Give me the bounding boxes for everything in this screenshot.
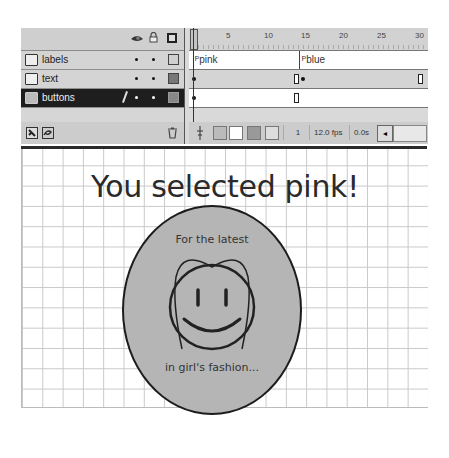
layers-header	[21, 28, 184, 51]
onion-skin-outlines-icon[interactable]	[229, 126, 243, 140]
layers-panel: labels text buttons	[21, 28, 185, 144]
selection-headline: You selected pink!	[22, 169, 428, 204]
frame-row-buttons[interactable]	[189, 89, 428, 108]
frame-label-pink: ᴾpink	[195, 54, 218, 65]
keyframe-divider	[299, 51, 300, 69]
center-frame-icon[interactable]	[195, 126, 205, 140]
layer-icon	[25, 92, 38, 104]
timeline-panel: labels text buttons	[21, 28, 428, 144]
elapsed-time: 0.0s	[349, 125, 376, 140]
keyframe[interactable]	[301, 77, 305, 81]
frame-ruler[interactable]: 5 10 15 20 25 30	[189, 28, 428, 51]
lock-toggle[interactable]	[152, 96, 155, 99]
layer-icon	[25, 54, 38, 66]
visibility-toggle[interactable]	[135, 77, 138, 80]
outline-icon[interactable]	[167, 33, 177, 43]
layer-row-text[interactable]: text	[21, 70, 184, 89]
layers-footer	[21, 122, 184, 144]
keyframe-end[interactable]	[418, 74, 423, 84]
onion-skin-icon[interactable]	[213, 126, 227, 140]
frame-row-labels[interactable]: ᴾpink ᴾblue	[189, 51, 428, 70]
smiley-face-icon	[124, 207, 300, 413]
frame-row-text[interactable]	[189, 70, 428, 89]
lock-toggle[interactable]	[152, 58, 155, 61]
stage-canvas[interactable]: You selected pink! For the latest in gir…	[21, 149, 428, 408]
trash-icon[interactable]	[167, 127, 178, 139]
outline-color-swatch[interactable]	[168, 54, 179, 65]
badge-bottom-text: in girl's fashion...	[124, 361, 300, 374]
insert-layer-icon[interactable]	[26, 127, 38, 139]
layer-icon	[25, 73, 38, 85]
layer-name: text	[42, 72, 58, 86]
fashion-button[interactable]: For the latest in girl's fashion...	[122, 205, 302, 415]
lock-icon[interactable]	[149, 32, 158, 43]
visibility-toggle[interactable]	[135, 96, 138, 99]
horizontal-scrollbar[interactable]	[393, 125, 427, 142]
layer-name: buttons	[42, 91, 75, 105]
frame-label-blue: ᴾblue	[302, 54, 325, 65]
visibility-toggle[interactable]	[135, 58, 138, 61]
edit-multiple-frames-icon[interactable]	[247, 126, 261, 140]
layer-row-labels[interactable]: labels	[21, 51, 184, 70]
playhead-line	[193, 28, 194, 123]
add-guide-layer-icon[interactable]	[42, 127, 54, 139]
keyframe-end[interactable]	[294, 74, 299, 84]
outline-color-swatch[interactable]	[168, 92, 179, 103]
outline-color-swatch[interactable]	[168, 73, 179, 84]
layer-name: labels	[42, 53, 68, 67]
ruler-label: 20	[339, 31, 348, 40]
pencil-icon	[122, 91, 128, 103]
current-frame: 1	[283, 125, 308, 140]
playhead[interactable]	[190, 29, 198, 50]
eye-icon[interactable]	[131, 34, 143, 43]
layer-row-buttons[interactable]: buttons	[21, 89, 184, 108]
ruler-label: 5	[226, 31, 230, 40]
lock-toggle[interactable]	[152, 77, 155, 80]
ruler-label: 15	[301, 31, 310, 40]
timeline-status-bar: 1 12.0 fps 0.0s ◂	[189, 122, 428, 144]
ruler-label: 10	[264, 31, 273, 40]
scroll-left-button[interactable]: ◂	[377, 125, 393, 142]
keyframe-end[interactable]	[294, 93, 299, 103]
ruler-label: 30	[415, 31, 424, 40]
modify-onion-markers-icon[interactable]	[265, 126, 279, 140]
ruler-label: 25	[377, 31, 386, 40]
frame-rate: 12.0 fps	[309, 125, 348, 140]
